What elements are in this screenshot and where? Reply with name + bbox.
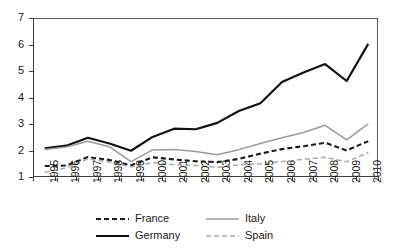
plot-area: [33, 18, 378, 177]
y-axis-tick-label: 1: [8, 171, 24, 182]
legend-entry-germany[interactable]: Germany: [96, 227, 200, 244]
x-axis-tick: [33, 177, 34, 181]
x-axis-tick-label: 2002: [200, 160, 211, 183]
legend-swatch-germany-icon: [96, 231, 129, 241]
x-axis-tick-label: 2010: [372, 160, 383, 183]
legend-swatch-france-icon: [96, 214, 129, 224]
x-axis-tick-label: 2001: [178, 160, 189, 183]
x-axis-tick-label: 1998: [113, 160, 124, 183]
legend-label-italy: Italy: [245, 213, 265, 224]
x-axis-tick-label: 2004: [243, 160, 254, 183]
y-axis-tick-label: 4: [8, 92, 24, 103]
legend-entry-italy[interactable]: Italy: [206, 210, 310, 227]
x-axis-tick-label: 2007: [308, 160, 319, 183]
x-axis-tick-label: 2003: [221, 160, 232, 183]
y-axis-tick-label: 7: [8, 12, 24, 23]
x-axis-tick-label: 1997: [92, 160, 103, 183]
x-axis-tick-label: 2000: [157, 160, 168, 183]
legend-label-france: France: [135, 213, 169, 224]
legend-swatch-spain-icon: [206, 231, 239, 241]
x-axis-tick-label: 2005: [264, 160, 275, 183]
chart-legend: FranceItalyGermanySpain: [96, 210, 326, 244]
legend-entry-france[interactable]: France: [96, 210, 200, 227]
y-axis-tick-label: 6: [8, 39, 24, 50]
x-axis-tick-label: 2008: [329, 160, 340, 183]
legend-label-spain: Spain: [245, 230, 273, 241]
y-axis-tick-label: 2: [8, 145, 24, 156]
line-chart-figure: 1234567 19951996199719981999200020012002…: [0, 0, 393, 252]
x-axis-tick-label: 1996: [70, 160, 81, 183]
legend-label-germany: Germany: [135, 230, 180, 241]
series-canvas: [34, 19, 379, 178]
x-axis-tick-label: 1999: [135, 160, 146, 183]
legend-entry-spain[interactable]: Spain: [206, 227, 310, 244]
x-axis-tick-label: 1995: [49, 160, 60, 183]
y-axis-tick-label: 5: [8, 65, 24, 76]
y-axis-tick-label: 3: [8, 118, 24, 129]
x-axis-tick-label: 2006: [286, 160, 297, 183]
x-axis-tick-label: 2009: [351, 160, 362, 183]
legend-swatch-italy-icon: [206, 214, 239, 224]
series-line-germany: [45, 44, 368, 151]
